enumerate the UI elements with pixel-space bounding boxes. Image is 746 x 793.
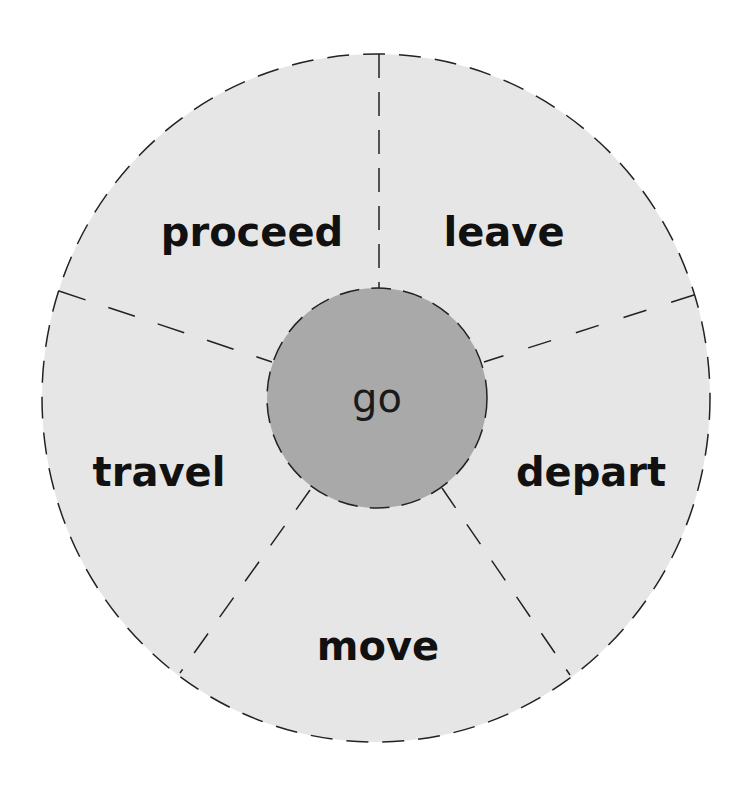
segment-label-travel: travel <box>93 449 226 495</box>
segment-label-move: move <box>317 623 439 669</box>
center-label: go <box>352 375 402 421</box>
segment-label-leave: leave <box>443 209 564 255</box>
word-wheel-diagram: go leave depart move travel proceed <box>0 0 746 793</box>
segment-label-proceed: proceed <box>161 209 343 255</box>
segment-label-depart: depart <box>516 449 666 495</box>
